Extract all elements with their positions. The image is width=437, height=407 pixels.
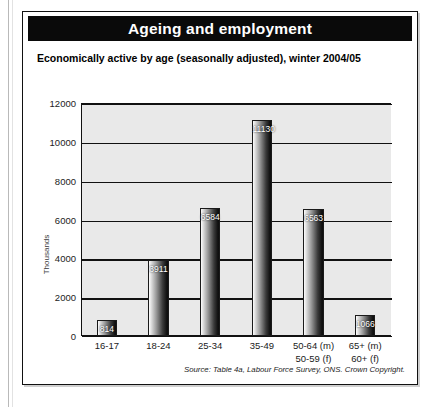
bar-slot: 6563 <box>303 103 324 336</box>
x-axis-tick-label: 50-64 (m)50-59 (f) <box>288 340 340 365</box>
x-axis-tick-label: 35-49 <box>236 340 288 353</box>
bar-value-label: 11130 <box>253 124 272 134</box>
y-axis-tick-label: 10000 <box>50 136 76 147</box>
y-axis-tick-label: 2000 <box>55 292 76 303</box>
x-axis-tick-label-line: 60+ (f) <box>339 353 391 366</box>
x-axis-tick-label-line: 16-17 <box>81 340 133 353</box>
x-axis-tick-label-line: 25-34 <box>184 340 236 353</box>
x-axis-tick-label: 65+ (m)60+ (f) <box>339 340 391 365</box>
bar[interactable]: 1066 <box>355 315 376 336</box>
bar[interactable]: 11130 <box>252 120 273 336</box>
bar-slot: 11130 <box>252 103 273 336</box>
y-axis-tick-label: 12000 <box>50 98 76 109</box>
bar[interactable]: 6563 <box>303 209 324 336</box>
x-axis-tick-label-line: 50-59 (f) <box>288 353 340 366</box>
bar-series: 814391165841113065631066 <box>81 103 391 336</box>
bar-chart: Thousands 020004000600080001000012000 81… <box>23 72 419 382</box>
x-axis-tick-label: 25-34 <box>184 340 236 353</box>
bar-value-label: 1066 <box>356 319 375 329</box>
figure-subtitle: Economically active by age (seasonally a… <box>37 52 361 64</box>
y-axis-tick-label: 6000 <box>55 214 76 225</box>
source-note: Source: Table 4a, Labour Force Survey, O… <box>184 365 405 374</box>
y-axis-tick-label: 8000 <box>55 175 76 186</box>
x-axis-tick-label-line: 35-49 <box>236 340 288 353</box>
x-axis-tick-label-line: 50-64 (m) <box>288 340 340 353</box>
bar-slot: 3911 <box>148 103 169 336</box>
bar-value-label: 6563 <box>304 213 323 223</box>
x-axis-tick-label: 16-17 <box>81 340 133 353</box>
page-margin-rule-secondary <box>12 0 13 407</box>
bar-slot: 6584 <box>200 103 221 336</box>
bar-slot: 1066 <box>355 103 376 336</box>
page-title: Ageing and employment <box>128 20 312 38</box>
bar[interactable]: 3911 <box>148 260 169 336</box>
y-axis-tick-label: 4000 <box>55 253 76 264</box>
x-axis-tick-label-line: 18-24 <box>133 340 185 353</box>
y-axis-tick-labels: 020004000600080001000012000 <box>23 103 76 336</box>
bar-value-label: 814 <box>98 324 117 334</box>
x-axis-tick-labels: 16-1718-2425-3435-4950-64 (m)50-59 (f)65… <box>81 340 391 382</box>
figure-frame: Ageing and employment Economically activ… <box>22 11 418 385</box>
bar[interactable]: 814 <box>97 320 118 336</box>
x-axis-tick-label-line: 65+ (m) <box>339 340 391 353</box>
bar-value-label: 6584 <box>201 212 220 222</box>
x-axis-tick-label: 18-24 <box>133 340 185 353</box>
figure-title-bar: Ageing and employment <box>28 16 412 41</box>
bar-value-label: 3911 <box>149 264 168 274</box>
bar[interactable]: 6584 <box>200 208 221 336</box>
y-axis-tick-label: 0 <box>71 331 76 342</box>
page-margin-rule <box>8 0 9 407</box>
bar-slot: 814 <box>97 103 118 336</box>
